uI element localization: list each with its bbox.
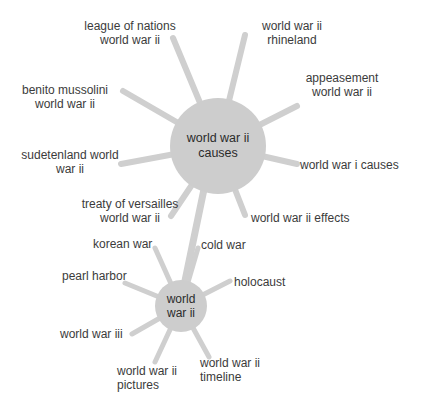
node-label-line1: pearl harbor bbox=[62, 269, 127, 283]
node-holocaust[interactable]: holocaust bbox=[234, 275, 285, 289]
node-label-line1: league of nations bbox=[70, 19, 190, 33]
node-world-war-i-causes[interactable]: world war i causes bbox=[300, 158, 399, 172]
main-hub-label-line1: world war ii bbox=[168, 131, 268, 146]
node-label-line1: world war ii effects bbox=[251, 211, 349, 225]
node-world-war-ii-pictures[interactable]: world war ii pictures bbox=[117, 364, 177, 392]
main-hub-label-line2: causes bbox=[168, 146, 268, 161]
node-label-line2: world war ii bbox=[292, 85, 392, 99]
node-label-line1: world war iii bbox=[60, 327, 123, 341]
node-label-line2: world war ii bbox=[70, 211, 190, 225]
node-label-line2: war ii bbox=[10, 162, 130, 176]
node-label-line2: timeline bbox=[200, 370, 260, 384]
node-label-line1: holocaust bbox=[234, 275, 285, 289]
node-label-line2: world war ii bbox=[10, 97, 120, 111]
node-label-line1: treaty of versailles bbox=[70, 197, 190, 211]
node-cold-war[interactable]: cold war bbox=[201, 238, 246, 252]
node-label-line1: world war ii bbox=[117, 364, 177, 378]
node-label-line1: cold war bbox=[201, 238, 246, 252]
node-world-war-ii-timeline[interactable]: world war ii timeline bbox=[200, 356, 260, 384]
node-sudetenland[interactable]: sudetenland world war ii bbox=[10, 148, 130, 176]
node-label-line1: world war i causes bbox=[300, 158, 399, 172]
node-label-line2: rhineland bbox=[237, 33, 347, 47]
node-label-line1: world war ii bbox=[200, 356, 260, 370]
node-label-line1: appeasement bbox=[292, 71, 392, 85]
secondary-hub-label[interactable]: world war ii bbox=[151, 292, 211, 320]
node-label-line2: world war ii bbox=[70, 33, 190, 47]
node-world-war-iii[interactable]: world war iii bbox=[60, 327, 123, 341]
secondary-hub-label-line1: world bbox=[151, 292, 211, 306]
node-appeasement[interactable]: appeasement world war ii bbox=[292, 71, 392, 99]
node-treaty-of-versailles[interactable]: treaty of versailles world war ii bbox=[70, 197, 190, 225]
node-korean-war[interactable]: korean war bbox=[93, 237, 152, 251]
node-label-line1: korean war bbox=[93, 237, 152, 251]
node-label-line2: pictures bbox=[117, 378, 177, 392]
node-world-war-ii-rhineland[interactable]: world war ii rhineland bbox=[237, 19, 347, 47]
node-pearl-harbor[interactable]: pearl harbor bbox=[62, 269, 127, 283]
secondary-hub-label-line2: war ii bbox=[151, 306, 211, 320]
mind-map-canvas bbox=[0, 0, 429, 407]
node-label-line1: sudetenland world bbox=[10, 148, 130, 162]
main-hub-label[interactable]: world war ii causes bbox=[168, 131, 268, 161]
node-league-of-nations[interactable]: league of nations world war ii bbox=[70, 19, 190, 47]
node-world-war-ii-effects[interactable]: world war ii effects bbox=[251, 211, 349, 225]
node-benito-mussolini[interactable]: benito mussolini world war ii bbox=[10, 83, 120, 111]
node-label-line1: benito mussolini bbox=[10, 83, 120, 97]
node-label-line1: world war ii bbox=[237, 19, 347, 33]
